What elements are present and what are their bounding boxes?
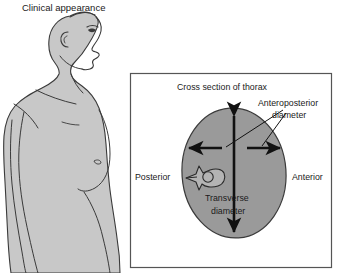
label-anteroposterior-line2: diameter	[272, 110, 306, 120]
label-anterior: Anterior	[292, 172, 323, 182]
vertebral-foramen	[203, 172, 213, 182]
figure-title: Clinical appearance	[22, 2, 105, 13]
label-posterior: Posterior	[135, 172, 170, 182]
label-transverse-line2: diameter	[211, 206, 245, 216]
label-transverse-line1: Transverse	[205, 193, 249, 203]
medical-figure: Clinical appearance	[0, 0, 339, 273]
label-anteroposterior-line1: Anteroposterior	[258, 98, 318, 108]
cross-section-panel: Cross section of thorax Anteroposterior	[131, 74, 332, 268]
figure-canvas: Clinical appearance	[0, 0, 339, 273]
body-profile-illustration	[4, 12, 120, 273]
panel-title: Cross section of thorax	[177, 82, 268, 92]
